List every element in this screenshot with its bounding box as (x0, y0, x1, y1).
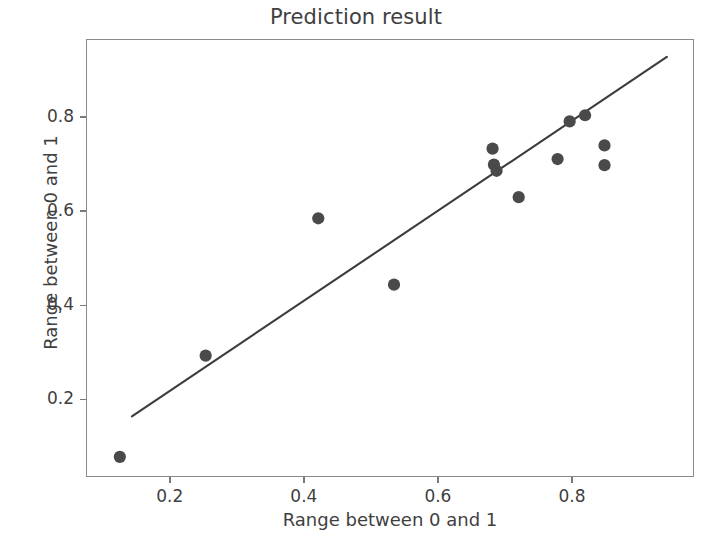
y-tick-mark (80, 116, 86, 118)
data-point (312, 212, 324, 224)
x-tick-label: 0.4 (274, 486, 334, 506)
data-point (564, 115, 576, 127)
chart-figure: Prediction result 0.20.40.60.8 0.20.40.6… (0, 0, 712, 544)
data-point (579, 109, 591, 121)
data-point (200, 350, 212, 362)
data-point (598, 139, 610, 151)
y-tick-mark (80, 305, 86, 307)
data-point (388, 279, 400, 291)
data-point (490, 165, 502, 177)
plot-area (86, 39, 694, 477)
x-tick-label: 0.6 (408, 486, 468, 506)
data-point (598, 159, 610, 171)
data-point (114, 451, 126, 463)
data-point (486, 143, 498, 155)
y-tick-mark (80, 210, 86, 212)
chart-title: Prediction result (0, 5, 712, 29)
x-tick-mark (571, 477, 573, 483)
x-tick-mark (303, 477, 305, 483)
data-point (551, 153, 563, 165)
y-tick-mark (80, 399, 86, 401)
y-axis-label: Range between 0 and 1 (40, 23, 61, 463)
x-axis-label: Range between 0 and 1 (86, 509, 694, 530)
x-tick-mark (169, 477, 171, 483)
x-tick-mark (437, 477, 439, 483)
data-point (513, 191, 525, 203)
scatter-points-layer (114, 109, 611, 463)
x-tick-label: 0.8 (542, 486, 602, 506)
plot-canvas (87, 40, 695, 478)
x-tick-label: 0.2 (140, 486, 200, 506)
